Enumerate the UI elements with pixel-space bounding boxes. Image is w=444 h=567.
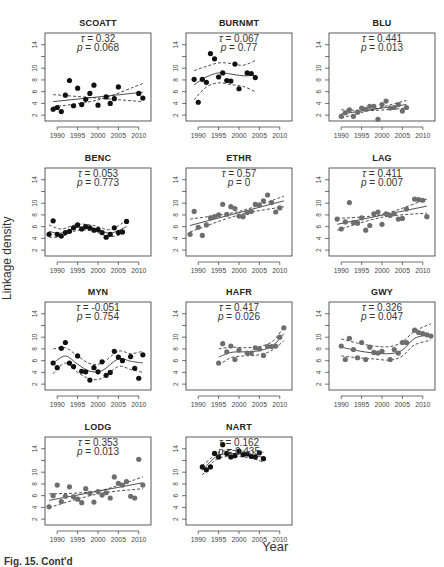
data-point xyxy=(79,500,84,505)
data-point xyxy=(220,70,225,75)
data-point xyxy=(396,102,401,107)
data-point xyxy=(220,202,225,207)
x-axis-label: Year xyxy=(262,539,288,554)
svg-text:2: 2 xyxy=(172,113,179,117)
svg-text:2: 2 xyxy=(172,517,179,521)
data-point xyxy=(59,109,64,114)
data-point xyxy=(371,104,376,109)
data-point xyxy=(224,349,229,354)
plot-area: 2468101419901995200020052010τ = 0.417p =… xyxy=(156,286,302,416)
svg-text:1995: 1995 xyxy=(354,132,369,139)
data-point xyxy=(424,214,429,219)
svg-text:8: 8 xyxy=(172,213,179,217)
svg-text:2: 2 xyxy=(31,248,38,252)
svg-text:2005: 2005 xyxy=(111,401,126,408)
data-point xyxy=(355,221,360,226)
data-point xyxy=(59,499,64,504)
data-point xyxy=(261,198,266,203)
plot-area: 2468101419901995200020052010τ = 0.162p =… xyxy=(156,421,302,551)
data-point xyxy=(132,366,137,371)
data-point xyxy=(51,360,56,365)
svg-text:4: 4 xyxy=(315,370,322,374)
data-point xyxy=(71,364,76,369)
data-point xyxy=(63,93,68,98)
data-point xyxy=(116,355,121,360)
svg-text:1995: 1995 xyxy=(70,132,85,139)
svg-text:1990: 1990 xyxy=(191,267,206,274)
data-point xyxy=(379,222,384,227)
data-point xyxy=(91,83,96,88)
svg-text:4: 4 xyxy=(31,370,38,374)
svg-text:14: 14 xyxy=(31,310,38,318)
svg-text:1990: 1990 xyxy=(334,132,349,139)
data-point xyxy=(208,464,213,469)
data-point xyxy=(140,352,145,357)
p-value-annotation: p = 0.013 xyxy=(360,42,403,53)
data-point xyxy=(196,225,201,230)
p-value-annotation: p = 0.047 xyxy=(360,311,403,322)
data-point xyxy=(261,456,266,461)
svg-text:2005: 2005 xyxy=(111,132,126,139)
svg-text:4: 4 xyxy=(31,236,38,240)
data-point xyxy=(204,80,209,85)
svg-text:2000: 2000 xyxy=(374,267,389,274)
data-point xyxy=(249,71,254,76)
svg-text:4: 4 xyxy=(172,101,179,105)
svg-text:2: 2 xyxy=(31,382,38,386)
data-point xyxy=(257,202,262,207)
svg-text:14: 14 xyxy=(172,445,179,453)
svg-text:2010: 2010 xyxy=(272,132,287,139)
data-point xyxy=(355,355,360,360)
svg-text:2000: 2000 xyxy=(231,401,246,408)
data-point xyxy=(253,75,258,80)
data-point xyxy=(249,350,254,355)
svg-text:2005: 2005 xyxy=(252,267,267,274)
svg-text:2000: 2000 xyxy=(374,132,389,139)
p-value-annotation: p = 0.435 xyxy=(217,446,260,457)
p-value-annotation: p = 0.013 xyxy=(76,446,119,457)
svg-text:2005: 2005 xyxy=(395,267,410,274)
plot-area: 2468101419901995200020052010τ = 0.57p = … xyxy=(156,152,302,282)
plot-area: 2468101419901995200020052010τ = -0.051p … xyxy=(15,286,161,416)
data-point xyxy=(379,102,384,107)
data-point xyxy=(269,200,274,205)
svg-text:14: 14 xyxy=(172,310,179,318)
svg-text:2: 2 xyxy=(315,113,322,117)
data-point xyxy=(249,209,254,214)
data-point xyxy=(236,348,241,353)
data-point xyxy=(91,365,96,370)
data-point xyxy=(67,484,72,489)
svg-text:10: 10 xyxy=(172,333,179,341)
data-point xyxy=(104,490,109,495)
data-point xyxy=(212,451,217,456)
data-point xyxy=(343,357,348,362)
data-point xyxy=(216,74,221,79)
data-point xyxy=(392,211,397,216)
panel-nart: NART2468101419901995200020052010τ = 0.16… xyxy=(156,421,302,551)
data-point xyxy=(216,360,221,365)
svg-text:8: 8 xyxy=(31,347,38,351)
data-point xyxy=(59,346,64,351)
svg-text:2005: 2005 xyxy=(395,132,410,139)
data-point xyxy=(75,497,80,502)
svg-text:14: 14 xyxy=(31,41,38,49)
data-point xyxy=(379,349,384,354)
svg-text:2010: 2010 xyxy=(272,267,287,274)
svg-text:10: 10 xyxy=(31,468,38,476)
plot-area: 2468101419901995200020052010τ = 0.326p =… xyxy=(299,286,444,416)
data-point xyxy=(192,77,197,82)
svg-text:10: 10 xyxy=(172,64,179,72)
panel-myn: MYN2468101419901995200020052010τ = -0.05… xyxy=(15,286,161,416)
data-point xyxy=(99,359,104,364)
data-point xyxy=(46,232,51,237)
data-point xyxy=(192,209,197,214)
svg-text:8: 8 xyxy=(172,78,179,82)
svg-text:4: 4 xyxy=(172,370,179,374)
svg-text:6: 6 xyxy=(172,493,179,497)
data-point xyxy=(51,218,56,223)
svg-text:2: 2 xyxy=(31,113,38,117)
data-point xyxy=(124,219,129,224)
p-value-annotation: p = 0.007 xyxy=(360,177,403,188)
svg-text:14: 14 xyxy=(172,41,179,49)
data-point xyxy=(339,226,344,231)
